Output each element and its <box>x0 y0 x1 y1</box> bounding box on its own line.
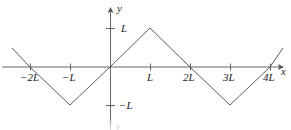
x-axis-label: x <box>281 66 286 77</box>
plot-canvas <box>0 0 291 130</box>
x-tick-label--L: −L <box>62 72 76 83</box>
triangle-wave-figure: y x −2L −L L 2L 3L 4L L −L y <box>0 0 291 130</box>
y-tick-label--L: −L <box>119 100 133 111</box>
triangle-wave-curve <box>12 28 283 105</box>
y-tick-label-L: L <box>121 23 127 34</box>
x-tick-label-3L: 3L <box>223 72 235 83</box>
x-tick-label--2L: −2L <box>20 72 39 83</box>
partial-next-figure-axis <box>104 120 120 130</box>
y-axis-label: y <box>117 3 122 14</box>
x-tick-label-4L: 4L <box>263 72 275 83</box>
x-tick-label-2L: 2L <box>183 72 195 83</box>
x-tick-label-L: L <box>147 72 153 83</box>
